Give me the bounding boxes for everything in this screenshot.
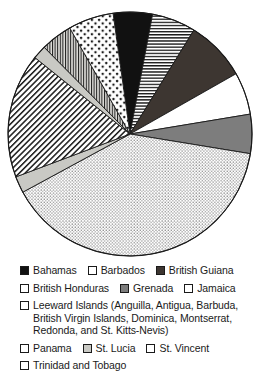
- legend-row: British HondurasGrenadaJamaica: [20, 282, 247, 295]
- legend-swatch-icon: [20, 266, 29, 275]
- legend-item[interactable]: Grenada: [120, 282, 173, 295]
- legend-item[interactable]: Barbados: [88, 264, 145, 277]
- legend-item-label: Grenada: [133, 282, 173, 295]
- legend-item-label: St. Vincent: [159, 342, 209, 355]
- legend-swatch-icon: [20, 301, 29, 310]
- legend-swatch-icon: [20, 344, 29, 353]
- legend-item[interactable]: Trinidad and Tobago: [20, 359, 126, 372]
- legend-item[interactable]: St. Vincent: [146, 342, 209, 355]
- legend-item-label: Jamaica: [197, 282, 235, 295]
- legend-row: PanamaSt. LuciaSt. Vincent: [20, 342, 247, 355]
- legend-item-label: Panama: [33, 342, 72, 355]
- legend-row: BahamasBarbadosBritish Guiana: [20, 264, 247, 277]
- pie-chart-area: [0, 0, 255, 258]
- legend-item[interactable]: Leeward Islands (Anguilla, Antigua, Barb…: [20, 299, 247, 337]
- legend-item-label: British Guiana: [169, 264, 234, 277]
- legend-swatch-icon: [20, 284, 29, 293]
- legend-swatch-icon: [120, 284, 129, 293]
- legend-item-label: Bahamas: [33, 264, 77, 277]
- legend-item[interactable]: British Honduras: [20, 282, 109, 295]
- legend-swatch-icon: [83, 344, 92, 353]
- legend-item[interactable]: Panama: [20, 342, 72, 355]
- legend-swatch-icon: [184, 284, 193, 293]
- legend-item[interactable]: Jamaica: [184, 282, 235, 295]
- legend-item-label: St. Lucia: [96, 342, 136, 355]
- legend-swatch-icon: [88, 266, 97, 275]
- legend-item[interactable]: British Guiana: [156, 264, 234, 277]
- legend-item-label: Barbados: [101, 264, 145, 277]
- legend-item-label: Leeward Islands (Anguilla, Antigua, Barb…: [33, 299, 247, 337]
- pie-chart-page: BahamasBarbadosBritish GuianaBritish Hon…: [0, 0, 255, 388]
- legend-item[interactable]: Bahamas: [20, 264, 77, 277]
- chart-legend: BahamasBarbadosBritish GuianaBritish Hon…: [0, 258, 255, 388]
- legend-swatch-icon: [156, 266, 165, 275]
- legend-row: Leeward Islands (Anguilla, Antigua, Barb…: [20, 299, 247, 337]
- legend-swatch-icon: [20, 361, 29, 370]
- legend-item-label: British Honduras: [33, 282, 109, 295]
- legend-item-label: Trinidad and Tobago: [33, 359, 126, 372]
- legend-swatch-icon: [146, 344, 155, 353]
- pie-chart-svg: [0, 0, 255, 258]
- pie-slices-group: [8, 12, 252, 256]
- legend-item[interactable]: St. Lucia: [83, 342, 136, 355]
- legend-row: Trinidad and Tobago: [20, 359, 247, 372]
